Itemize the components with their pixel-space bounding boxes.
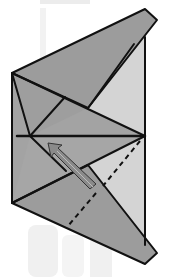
origami-diagram — [0, 0, 173, 277]
